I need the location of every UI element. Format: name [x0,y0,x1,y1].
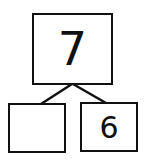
part-box-left[interactable] [8,103,66,153]
whole-value: 7 [58,22,87,76]
part-box-right: 6 [80,102,138,152]
connector-left [41,84,72,104]
whole-box: 7 [32,13,113,85]
connector-right [73,84,106,103]
part-value-right: 6 [99,110,118,145]
